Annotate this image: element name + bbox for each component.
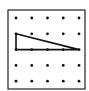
grid-dot xyxy=(78,32,81,35)
grid-dot xyxy=(15,80,18,83)
grid-dot xyxy=(78,17,81,20)
grid-dot xyxy=(78,64,81,67)
grid-dot xyxy=(62,32,65,35)
grid-dot xyxy=(15,17,18,20)
grid-dot xyxy=(30,17,33,20)
grid-dot xyxy=(46,80,49,83)
grid-dot xyxy=(46,64,49,67)
grid-dot xyxy=(62,17,65,20)
grid-dot xyxy=(15,64,18,67)
grid-dot xyxy=(78,80,81,83)
grid-dot xyxy=(30,32,33,35)
grid-dot xyxy=(30,64,33,67)
grid-dot xyxy=(46,17,49,20)
triangle-shape xyxy=(16,34,79,50)
geoboard-diagram xyxy=(0,0,89,91)
grid-dot xyxy=(46,32,49,35)
grid-dot xyxy=(30,80,33,83)
grid-dot xyxy=(62,80,65,83)
grid-dot xyxy=(62,64,65,67)
